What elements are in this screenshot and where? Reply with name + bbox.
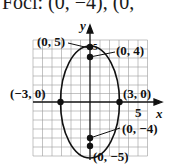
point-focus-bottom: [87, 135, 93, 141]
label-focus-bottom: (0, −4): [122, 121, 158, 136]
leader-lines: [68, 43, 120, 138]
y-axis-arrow-icon: [87, 25, 93, 33]
x-tick-label: 5: [135, 105, 142, 120]
x-axis-arrow-icon: [154, 99, 162, 105]
label-covertex-right: (3, 0): [123, 86, 151, 101]
y-axis-label: y: [78, 18, 86, 33]
label-covertex-left: (−3, 0): [10, 86, 46, 101]
label-vertex-bottom: (0, −5): [93, 149, 129, 164]
point-covertex-right: [116, 99, 122, 105]
x-axis-label: x: [155, 106, 163, 121]
point-covertex-left: [57, 99, 63, 105]
label-vertex-top: (0, 5): [37, 34, 65, 49]
ellipse-graph: x y 5 5 (0, 5) (0, 4) (−3, 0) (3, 0) (0,…: [0, 0, 172, 168]
point-focus-top: [87, 54, 93, 60]
label-focus-top: (0, 4): [116, 43, 144, 58]
point-vertex-top: [87, 44, 93, 50]
